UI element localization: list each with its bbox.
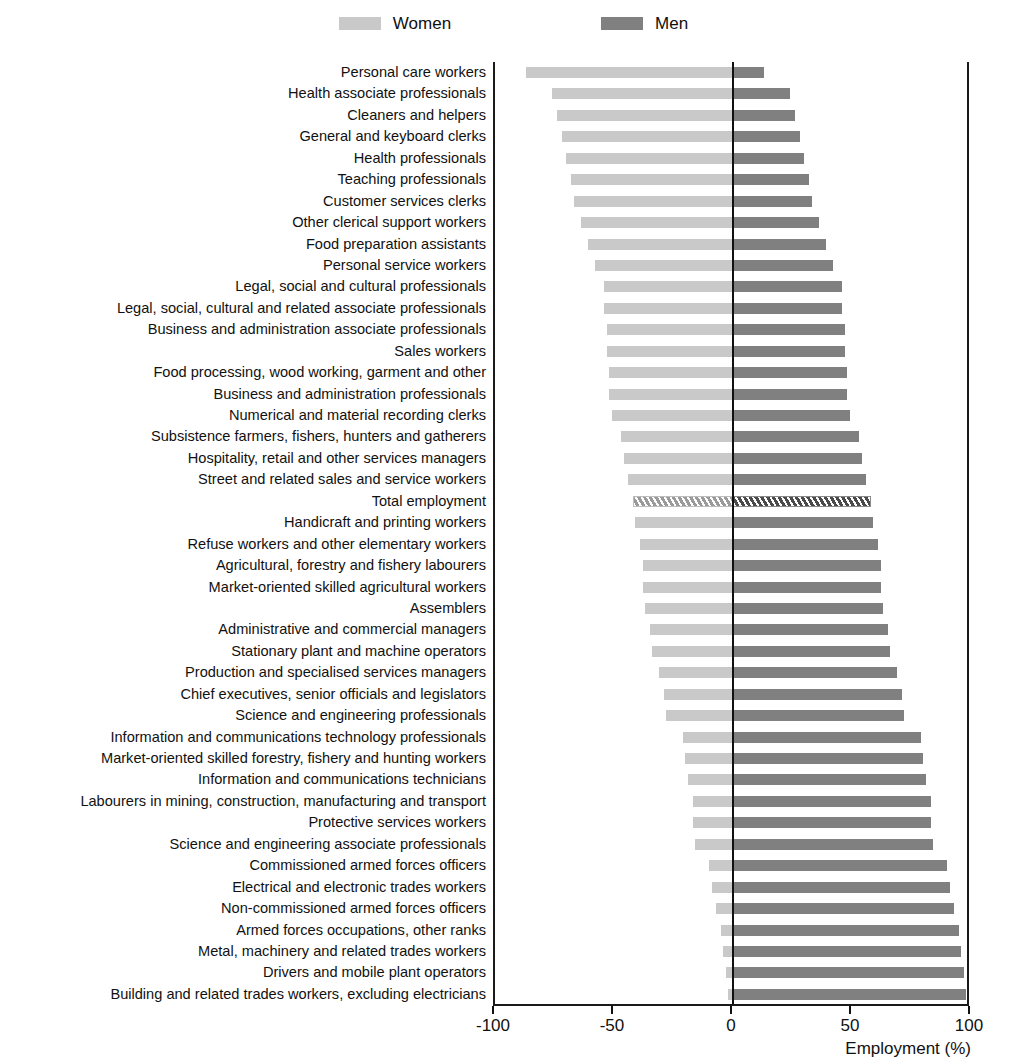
bar-row	[495, 384, 967, 405]
men-bar	[733, 774, 926, 785]
women-bar	[664, 689, 733, 700]
x-tick-label: 100	[955, 1016, 983, 1036]
men-bar	[733, 925, 959, 936]
men-bar	[733, 753, 923, 764]
men-bar	[733, 667, 897, 678]
men-bar	[733, 131, 800, 142]
category-label: Production and specialised services mana…	[0, 662, 490, 683]
men-bar	[733, 496, 871, 507]
category-label: Street and related sales and service wor…	[0, 469, 490, 490]
women-bar	[685, 753, 733, 764]
bar-row	[495, 62, 967, 83]
women-bar	[581, 217, 733, 228]
men-bar	[733, 646, 890, 657]
women-bar	[624, 453, 733, 464]
bar-row	[495, 298, 967, 319]
x-tick	[611, 1006, 613, 1014]
x-tick	[849, 1006, 851, 1014]
category-label: Personal care workers	[0, 62, 490, 83]
women-bar	[526, 67, 733, 78]
bar-row	[495, 705, 967, 726]
bar-row	[495, 941, 967, 962]
category-label: Drivers and mobile plant operators	[0, 962, 490, 983]
category-label: Commissioned armed forces officers	[0, 855, 490, 876]
bar-row	[495, 212, 967, 233]
category-label: Electrical and electronic trades workers	[0, 877, 490, 898]
bar-row	[495, 534, 967, 555]
bar-row	[495, 341, 967, 362]
bar-row	[495, 83, 967, 104]
bar-row	[495, 962, 967, 983]
bar-row	[495, 727, 967, 748]
bar-row	[495, 855, 967, 876]
men-bar	[733, 367, 847, 378]
bar-row	[495, 577, 967, 598]
category-label: Labourers in mining, construction, manuf…	[0, 791, 490, 812]
women-bar	[633, 496, 733, 507]
men-bar	[733, 603, 883, 614]
bar-row	[495, 169, 967, 190]
men-bar	[733, 796, 931, 807]
men-bar	[733, 517, 873, 528]
category-label: Business and administration associate pr…	[0, 319, 490, 340]
plot-area	[493, 62, 969, 1006]
women-bar	[693, 796, 733, 807]
category-label: Teaching professionals	[0, 169, 490, 190]
men-bar	[733, 817, 931, 828]
bar-row	[495, 684, 967, 705]
bar-rows	[495, 62, 967, 1005]
legend-label-women: Women	[393, 15, 451, 32]
category-label: Food processing, wood working, garment a…	[0, 362, 490, 383]
category-label: Administrative and commercial managers	[0, 619, 490, 640]
women-bar	[588, 239, 733, 250]
men-bar	[733, 260, 833, 271]
men-bar	[733, 582, 881, 593]
category-label: Total employment	[0, 491, 490, 512]
women-bar	[652, 646, 733, 657]
women-bar	[609, 389, 733, 400]
category-label: Hospitality, retail and other services m…	[0, 448, 490, 469]
bar-row	[495, 920, 967, 941]
men-bar	[733, 839, 933, 850]
category-label: General and keyboard clerks	[0, 126, 490, 147]
bar-row	[495, 148, 967, 169]
men-bar	[733, 860, 947, 871]
category-label: Non-commissioned armed forces officers	[0, 898, 490, 919]
women-bar	[612, 410, 733, 421]
x-tick-label: -50	[600, 1016, 625, 1036]
bar-row	[495, 555, 967, 576]
men-bar	[733, 153, 804, 164]
x-axis-tickmarks	[493, 1006, 969, 1016]
men-bar	[733, 239, 826, 250]
category-label: Other clerical support workers	[0, 212, 490, 233]
women-bar	[683, 732, 733, 743]
category-label: Agricultural, forestry and fishery labou…	[0, 555, 490, 576]
women-bar	[607, 324, 733, 335]
category-label: Protective services workers	[0, 812, 490, 833]
women-bar	[688, 774, 733, 785]
women-bar	[695, 839, 733, 850]
bar-row	[495, 791, 967, 812]
women-bar	[571, 174, 733, 185]
women-bar	[716, 903, 733, 914]
category-label: Customer services clerks	[0, 191, 490, 212]
women-bar	[693, 817, 733, 828]
women-bar	[635, 517, 733, 528]
men-bar	[733, 539, 878, 550]
category-label: Personal service workers	[0, 255, 490, 276]
bar-row	[495, 255, 967, 276]
bar-row	[495, 469, 967, 490]
women-bar	[659, 667, 733, 678]
women-bar	[562, 131, 733, 142]
category-label: Market-oriented skilled forestry, fisher…	[0, 748, 490, 769]
category-label: Building and related trades workers, exc…	[0, 984, 490, 1005]
men-bar	[733, 303, 842, 314]
category-label: Science and engineering associate profes…	[0, 834, 490, 855]
bar-row	[495, 405, 967, 426]
women-bar	[645, 603, 733, 614]
bar-row	[495, 426, 967, 447]
legend-entry-women: Women	[339, 15, 451, 32]
men-bar	[733, 389, 847, 400]
bar-row	[495, 984, 967, 1005]
chart-legend: Women Men	[0, 8, 1027, 38]
